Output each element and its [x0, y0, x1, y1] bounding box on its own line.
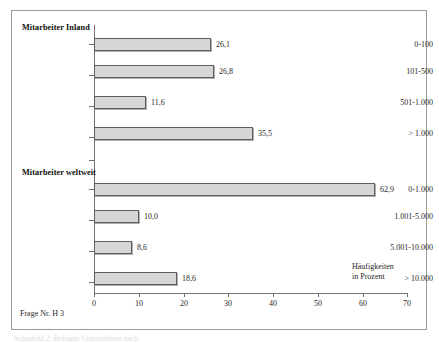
figure-container: Mitarbeiter Inland 0-100 26,1 101-500 26… [0, 0, 439, 343]
value-tick-10 [139, 293, 140, 297]
value-tick-label-0: 0 [92, 299, 96, 308]
category-label-inland-1: 101-500 [351, 67, 439, 76]
bar-value-inland-2: 11,6 [151, 98, 165, 107]
group-title-inland: Mitarbeiter Inland [22, 23, 90, 32]
group-title-weltweit: Mitarbeiter weltweit [22, 168, 96, 177]
bar-value-weltweit-3: 18,6 [182, 274, 196, 283]
bar-weltweit-1 [94, 210, 139, 223]
value-tick-20 [184, 293, 185, 297]
source-note: Frage Nr. H 3 [20, 309, 64, 318]
bar-weltweit-0 [94, 183, 375, 196]
value-tick-50 [318, 293, 319, 297]
bar-weltweit-3 [94, 272, 177, 285]
value-tick-label-50: 50 [314, 299, 322, 308]
bar-inland-3 [94, 127, 253, 140]
bar-value-weltweit-2: 8,6 [137, 243, 147, 252]
category-label-inland-3: > 1.000 [351, 129, 439, 138]
axis-unit-caption-line1: Häufigkeiten [352, 262, 394, 272]
bar-value-weltweit-0: 62,9 [380, 185, 394, 194]
category-label-weltweit-1: 1.001-5.000 [351, 212, 439, 221]
value-tick-0 [94, 293, 95, 297]
bar-value-inland-1: 26,8 [219, 67, 233, 76]
value-tick-70 [407, 293, 408, 297]
value-tick-label-10: 10 [135, 299, 143, 308]
bar-value-inland-0: 26,1 [216, 40, 230, 49]
category-label-inland-2: 501-1.000 [351, 98, 439, 107]
value-tick-label-30: 30 [224, 299, 232, 308]
value-tick-label-20: 20 [180, 299, 188, 308]
value-tick-60 [363, 293, 364, 297]
bar-inland-0 [94, 38, 211, 51]
bar-inland-2 [94, 96, 146, 109]
value-tick-label-60: 60 [359, 299, 367, 308]
value-axis-line [94, 293, 408, 294]
value-tick-40 [273, 293, 274, 297]
bar-value-inland-3: 35,5 [258, 129, 272, 138]
clipped-caption: Schaubild 2: Befragte Unternehmen nach [14, 334, 434, 342]
value-tick-label-40: 40 [269, 299, 277, 308]
axis-unit-caption-line2: in Prozent [352, 272, 394, 282]
bar-value-weltweit-1: 10,0 [144, 212, 158, 221]
value-tick-label-70: 70 [403, 299, 411, 308]
value-tick-30 [228, 293, 229, 297]
bar-inland-1 [94, 65, 214, 78]
category-label-weltweit-2: 5.001-10.000 [351, 243, 439, 252]
chart-plot-area: Mitarbeiter Inland 0-100 26,1 101-500 26… [0, 0, 439, 343]
axis-unit-caption: Häufigkeiten in Prozent [352, 262, 394, 282]
category-tick [89, 160, 94, 161]
category-label-inland-0: 0-100 [351, 40, 439, 49]
bar-weltweit-2 [94, 241, 132, 254]
